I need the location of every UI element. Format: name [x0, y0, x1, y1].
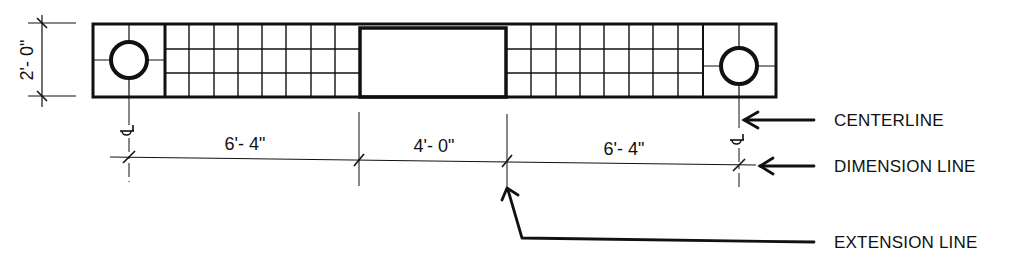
- left-end-cell: [93, 24, 165, 97]
- dimensioned-plan-diagram: 2'- 0": [0, 0, 1018, 260]
- dimension-label-right: 6'- 4": [604, 139, 645, 159]
- extension-line-arrow: [502, 188, 814, 242]
- callout-dimension-line: DIMENSION LINE: [834, 157, 976, 176]
- plan-outline: [93, 24, 776, 97]
- diagram-canvas: 2'- 0": [0, 0, 1018, 260]
- right-grid-panel: [506, 24, 703, 97]
- callout-centerline: CENTERLINE: [834, 111, 944, 130]
- vertical-dimension-label: 2'- 0": [17, 40, 37, 81]
- dimension-label-left: 6'- 4": [225, 134, 266, 154]
- centerline-symbol-right: [730, 134, 744, 144]
- center-open-panel: [360, 28, 506, 97]
- left-grid-panel: [165, 24, 359, 97]
- circle-icon: [111, 42, 147, 78]
- dimension-line-arrow: [760, 158, 814, 174]
- centerline-symbol-left: [120, 125, 134, 135]
- centerline-arrow: [744, 112, 814, 128]
- dimension-label-center: 4'- 0": [414, 136, 455, 156]
- circle-icon: [721, 48, 757, 84]
- callout-extension-line: EXTENSION LINE: [834, 233, 978, 252]
- right-end-cell: [703, 24, 776, 97]
